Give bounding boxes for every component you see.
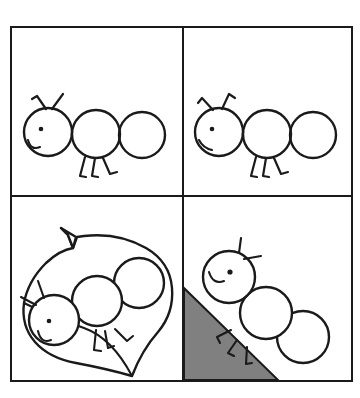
caterpillar-eye-p1 bbox=[39, 127, 44, 132]
caterpillar-head-p3 bbox=[29, 295, 79, 345]
four-panel-caterpillar-drawing bbox=[0, 0, 360, 398]
caterpillar-eye-p2 bbox=[210, 127, 215, 132]
caterpillar-eye-p3 bbox=[47, 319, 52, 324]
caterpillar-eye-p4 bbox=[227, 269, 232, 274]
illustration-canvas bbox=[0, 0, 360, 398]
